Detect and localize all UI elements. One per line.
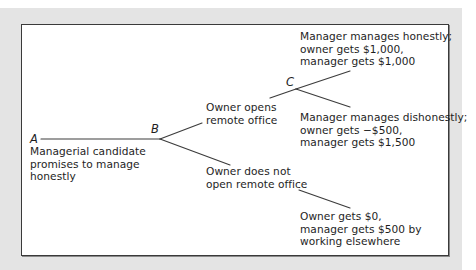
- branch-b-open: [160, 123, 202, 139]
- branch-c-honest: [296, 71, 350, 89]
- dishonest-outcome-label: Manager manages dishonestly; owner gets …: [300, 111, 467, 149]
- node-c: C: [286, 76, 294, 88]
- branch-b-no-office: [160, 139, 230, 165]
- branch-c-dishonest: [296, 89, 350, 107]
- honest-outcome-label: Manager manages honestly; owner gets $1,…: [300, 30, 452, 68]
- node-b: B: [151, 123, 159, 135]
- no-office-outcome-label: Owner gets $0, manager gets $500 by work…: [300, 210, 422, 248]
- node-a: A: [30, 133, 38, 145]
- branch-no-office-outcome: [299, 190, 350, 208]
- open-office-label: Owner opens remote office: [206, 101, 277, 126]
- root-label: Managerial candidate promises to manage …: [30, 145, 146, 183]
- branch-open-c: [270, 89, 296, 98]
- no-office-label: Owner does not open remote office: [206, 165, 307, 190]
